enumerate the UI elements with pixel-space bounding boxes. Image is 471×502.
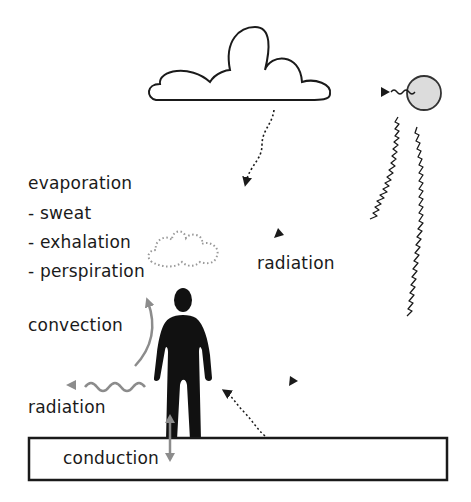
convection-arrow (135, 302, 152, 366)
label-radiation-sun: radiation (257, 255, 335, 272)
label-perspiration: - perspiration (28, 263, 145, 280)
label-exhalation: - exhalation (28, 234, 131, 251)
radiation-arrow-body (85, 383, 145, 391)
vapor-cloud-icon (149, 231, 218, 266)
label-convection: convection (28, 317, 123, 334)
radiation-arrow-sun-1 (370, 117, 399, 219)
label-conduction: conduction (63, 450, 159, 467)
label-evaporation: evaporation (28, 175, 132, 192)
label-radiation-body: radiation (28, 399, 106, 416)
sun-icon (407, 76, 441, 110)
radiation-arrow-sun-2 (407, 127, 423, 316)
dotted-arrow-ground-to-body (226, 392, 265, 436)
person-icon (154, 288, 212, 440)
cloud-icon (149, 27, 330, 100)
dotted-arrow-cloud-down (246, 110, 274, 182)
label-sweat: - sweat (28, 205, 91, 222)
